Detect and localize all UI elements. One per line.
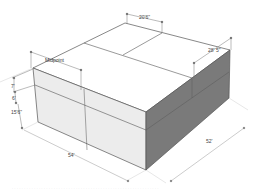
dimension-height-middle-label: 6': [12, 95, 16, 101]
dimension-front-length-label: 54': [68, 152, 75, 158]
dimension-top-right-label: 28' 5": [208, 47, 221, 53]
dimension-side-length-label: 52': [206, 138, 213, 144]
box-dimension-diagram: 20'6" 28' 5" Midpoint 7' 6' 15'6" 54': [0, 0, 255, 193]
figure-caption: . . . . . . . . . . . . . . . . . . . . …: [12, 186, 247, 191]
dimension-top-width-label: 20'6": [139, 14, 150, 20]
dimension-height-total-label: 15'6": [11, 109, 22, 115]
dimension-height-upper-label: 7': [11, 83, 15, 89]
midpoint-label: Midpoint: [45, 57, 65, 63]
